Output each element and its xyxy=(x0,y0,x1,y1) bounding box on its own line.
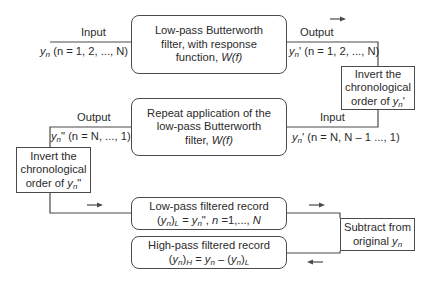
invert-order-box-right: Invert the chronological order of yn' xyxy=(341,66,415,110)
highpass-record-box: High-pass filtered record (yn)H = yn – (… xyxy=(131,236,287,269)
output-label-top: Output xyxy=(300,26,334,39)
to-lowpass-record-line xyxy=(50,193,131,213)
box-text: original yn xyxy=(353,235,402,249)
arrowhead-right-icon xyxy=(97,203,103,208)
box-text: Invert the xyxy=(30,150,77,164)
box-text: High-pass filtered record xyxy=(148,239,270,253)
box-text: Low-pass filtered record xyxy=(149,200,268,214)
output-label-mid: Output xyxy=(77,111,111,124)
repeat-filter-box: Repeat application of the low-pass Butte… xyxy=(131,98,287,156)
output-series-mid: yn" (n = N, ..., 1) xyxy=(51,130,131,143)
box-text: Repeat application of the xyxy=(147,107,271,121)
box-text: filter, with response xyxy=(161,38,257,52)
box-text: function, W(f) xyxy=(176,51,243,65)
arrowhead-right-icon xyxy=(319,203,325,208)
input-series-top: yn (n = 1, 2, ..., N) xyxy=(40,45,128,58)
box-text: filter, W(f) xyxy=(185,134,233,148)
lowpass-record-box: Low-pass filtered record (yn)L = yn", n … xyxy=(131,197,287,230)
arrowhead-left-icon xyxy=(307,260,313,265)
box-text: chronological xyxy=(345,81,411,95)
output-series-top: yn' (n = 1, 2, ..., N) xyxy=(289,45,379,58)
box-text: order of yn" xyxy=(26,177,82,191)
invert-order-box-left: Invert the chronological order of yn" xyxy=(16,147,91,193)
to-highpass-line xyxy=(287,251,340,253)
lowpass-butterworth-box: Low-pass Butterworth filter, with respon… xyxy=(131,15,287,74)
to-subtract-line xyxy=(287,213,340,218)
input-label-mid: Input xyxy=(320,111,345,124)
box-text: low-pass Butterworth xyxy=(157,120,261,134)
subtract-box: Subtract from original yn xyxy=(340,218,415,251)
box-text: chronological xyxy=(21,163,87,177)
highpass-equation: (yn)H = yn – (yn)L xyxy=(169,253,250,267)
input-series-mid: yn' (n = N, N – 1 ..., 1) xyxy=(292,131,400,144)
box-text: order of yn' xyxy=(351,95,405,109)
arrowhead-right-icon xyxy=(340,17,346,22)
box-text: Invert the xyxy=(355,68,402,82)
box-text: Low-pass Butterworth xyxy=(155,24,263,38)
lowpass-equation: (yn)L = yn", n =1,..., N xyxy=(157,214,261,228)
input-label-top: Input xyxy=(81,26,106,39)
box-text: Subtract from xyxy=(344,221,411,235)
